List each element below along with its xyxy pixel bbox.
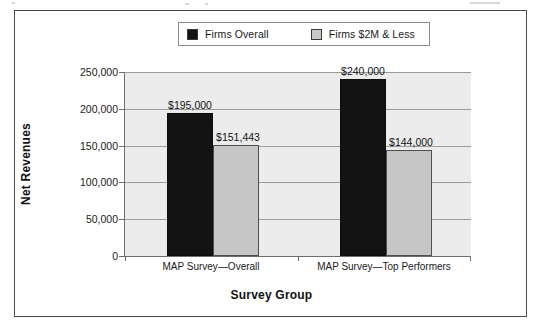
scan-artifact <box>185 3 189 5</box>
bar-firms-2m-and-less-group-1[interactable] <box>386 150 432 256</box>
gridline-250000 <box>125 72 471 73</box>
y-tick-label-150000: 150,000 <box>62 140 118 152</box>
legend-item-label: Firms $2M & Less <box>329 28 415 40</box>
bar-value-label-group-1-overall: $240,000 <box>341 65 385 77</box>
x-tick-mark <box>125 256 126 261</box>
y-tick-label-100000: 100,000 <box>62 176 118 188</box>
y-axis-title: Net Revenues <box>19 123 33 205</box>
dark-swatch-icon <box>187 29 198 40</box>
bar-value-label-group-0-2m: $151,443 <box>216 131 260 143</box>
bar-value-label-group-0-overall: $195,000 <box>168 99 212 111</box>
x-tick-mark <box>470 256 471 261</box>
x-category-label-0: MAP Survey—Overall <box>162 261 259 272</box>
light-swatch-icon <box>311 29 322 40</box>
y-tick-label-250000: 250,000 <box>62 66 118 78</box>
y-tick-label-50000: 50,000 <box>62 213 118 225</box>
y-tick-label-0: 0 <box>62 250 118 262</box>
legend-item-firms-overall[interactable]: Firms Overall <box>187 28 269 40</box>
legend-item-firms-2m-and-less[interactable]: Firms $2M & Less <box>311 28 415 40</box>
x-category-label-1: MAP Survey—Top Performers <box>317 261 451 272</box>
scan-artifact <box>470 2 500 4</box>
bar-firms-overall-group-0[interactable] <box>167 113 213 257</box>
bar-value-label-group-1-2m: $144,000 <box>389 136 433 148</box>
x-tick-mark <box>298 256 299 261</box>
y-tick-label-200000: 200,000 <box>62 103 118 115</box>
chart-figure: Firms Overall Firms $2M & Less Net Reven… <box>0 0 543 330</box>
plot-area: $195,000 $151,443 $240,000 $144,000 <box>124 72 471 257</box>
chart-legend: Firms Overall Firms $2M & Less <box>178 22 430 46</box>
legend-item-label: Firms Overall <box>205 28 269 40</box>
bar-firms-overall-group-1[interactable] <box>340 79 386 256</box>
bar-firms-2m-and-less-group-0[interactable] <box>213 145 259 257</box>
x-axis-title: Survey Group <box>0 288 543 302</box>
scan-artifact <box>12 2 15 4</box>
scan-artifact <box>205 3 208 5</box>
